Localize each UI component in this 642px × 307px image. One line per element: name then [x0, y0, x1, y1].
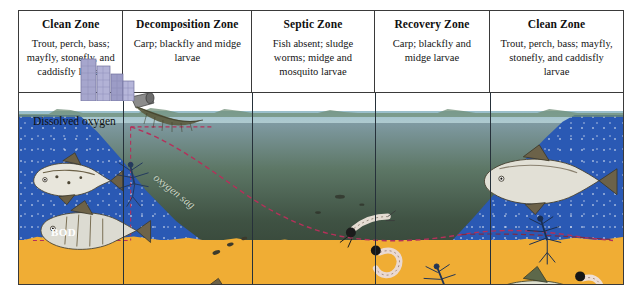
zone-septic: Septic Zone Fish absent; sludge worms; m…: [252, 11, 375, 92]
sewage-outfall-pipe-icon: [127, 93, 211, 137]
zone-clean-right: Clean Zone Trout, perch, bass; mayfly, s…: [490, 11, 623, 92]
bod-label: BOD: [51, 226, 76, 238]
zone-description: Fish absent; sludge worms; midge and mos…: [257, 37, 369, 79]
oxygen-sag-figure: Clean Zone Trout, perch, bass; mayfly, s…: [0, 0, 642, 307]
zone-title: Decomposition Zone: [128, 18, 246, 32]
zone-title: Clean Zone: [24, 18, 117, 32]
dissolved-oxygen-label: Dissolved oxygen: [33, 115, 116, 127]
zone-decomposition: Decomposition Zone Carp; blackfly and mi…: [123, 11, 252, 92]
diagram-frame: Clean Zone Trout, perch, bass; mayfly, s…: [18, 10, 624, 285]
zone-description: Trout, perch, bass; mayfly, stonefly, an…: [495, 37, 618, 79]
zone-title: Recovery Zone: [380, 18, 484, 32]
stream-cross-section: Dissolved oxygen BOD oxygen sag: [19, 93, 623, 285]
zone-description: Carp; blackfly and midge larvae: [380, 37, 484, 65]
zone-header-strip: Clean Zone Trout, perch, bass; mayfly, s…: [19, 11, 623, 93]
zone-divider-4: [490, 93, 491, 285]
zone-divider-3: [375, 93, 376, 285]
stream-bed-sand: [19, 240, 623, 285]
zone-title: Clean Zone: [495, 18, 618, 32]
zone-clean-left: Clean Zone Trout, perch, bass; mayfly, s…: [19, 11, 123, 92]
zone-divider-2: [252, 93, 253, 285]
zone-divider-1: [123, 93, 124, 285]
zone-title: Septic Zone: [257, 18, 369, 32]
zone-description: Carp; blackfly and midge larvae: [128, 37, 246, 65]
zone-description: Trout, perch, bass; mayfly, stonefly, an…: [24, 37, 117, 79]
zone-recovery: Recovery Zone Carp; blackfly and midge l…: [375, 11, 490, 92]
